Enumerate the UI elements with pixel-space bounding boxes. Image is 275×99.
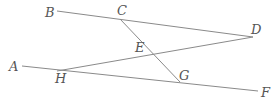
segment-bd [57, 11, 253, 37]
point-label-h: H [54, 71, 67, 86]
segment-hd [57, 37, 253, 71]
point-label-g: G [179, 68, 189, 83]
segment-cg [120, 19, 180, 82]
point-label-e: E [134, 40, 145, 55]
point-label-c: C [117, 3, 127, 18]
point-label-a: A [8, 59, 18, 74]
point-label-f: F [260, 85, 271, 99]
geometry-diagram: B C D E A H G F [0, 0, 275, 99]
point-label-d: D [250, 22, 262, 37]
point-label-b: B [44, 5, 55, 20]
